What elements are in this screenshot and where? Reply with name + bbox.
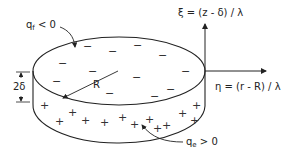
negative-charge: −: [105, 88, 114, 99]
negative-charge: −: [88, 66, 97, 77]
negative-charge: −: [108, 46, 117, 57]
positive-charge: +: [130, 119, 139, 130]
negative-charge: −: [132, 72, 141, 83]
negative-charge: −: [158, 50, 167, 61]
disk-top-surface: [33, 37, 205, 105]
top-charge-relation: < 0: [38, 19, 56, 30]
side-charge-label: qe > 0: [186, 137, 218, 149]
positive-charge: +: [118, 112, 127, 123]
side-charge-subscript: e: [192, 141, 196, 149]
positive-charge: +: [162, 120, 171, 131]
negative-charge: −: [83, 41, 92, 52]
negative-charge: −: [150, 91, 159, 102]
positive-charge: +: [100, 117, 109, 128]
positive-charge: +: [55, 116, 64, 127]
negative-charge: −: [58, 58, 67, 69]
xi-axis-label: ξ = (z - δ) / λ: [178, 8, 243, 18]
negative-charge: −: [133, 40, 142, 51]
positive-charge: +: [68, 107, 77, 118]
positive-charge: +: [192, 100, 201, 111]
positive-charge: +: [190, 115, 199, 126]
positive-charge: +: [40, 100, 49, 111]
negative-charge: −: [181, 66, 190, 77]
positive-charge: +: [153, 123, 162, 134]
charged-disk-diagram: − − − − − − − − − − − − + + + + + + + + …: [0, 0, 286, 158]
top-charge-subscript: f: [32, 24, 34, 32]
positive-charge: +: [178, 108, 187, 119]
thickness-label: 2δ: [13, 82, 25, 92]
negative-charge: −: [52, 76, 61, 87]
negative-charge: −: [166, 84, 175, 95]
eta-axis-label: η = (r - R) / λ: [215, 82, 281, 92]
positive-charge: +: [81, 115, 90, 126]
side-charge-relation: > 0: [200, 136, 218, 147]
top-charge-label: qf < 0: [26, 20, 56, 32]
radius-label: R: [93, 80, 100, 90]
